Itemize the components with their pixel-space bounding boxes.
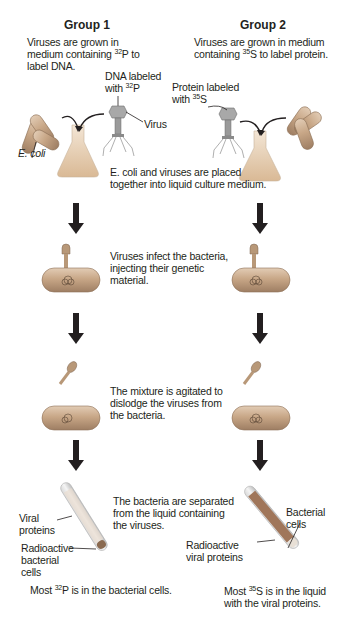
radioactive-bacterial-cells-label: Radioactive bacterial cells: [21, 542, 76, 578]
ecoli-cluster-group2: [285, 104, 324, 151]
detached-virus-group2: [244, 360, 263, 384]
flask-group1: [58, 125, 99, 177]
detached-virus-group1: [60, 360, 79, 384]
radioactive-viral-proteins-label: Radioactive viral proteins: [186, 539, 256, 563]
virus-label: Virus: [144, 118, 167, 130]
bacterium-group1-agitated: [42, 406, 100, 430]
bacteriophage-group1: [103, 96, 143, 156]
leader-radioactive-proteins: [257, 540, 275, 542]
step-1-text: E. coli and viruses are placed together …: [110, 166, 270, 190]
group1-result: Most 32P is in the bacterial cells.: [30, 584, 180, 596]
flow-arrows: [68, 203, 268, 471]
ecoli-label: E. coli: [18, 147, 45, 159]
infected-bacterium-group1: [42, 244, 100, 292]
bacteriophage-group2: [208, 106, 244, 158]
step-3-text: The mixture is agitated to dislodge the …: [110, 385, 225, 421]
arrow-virus-to-flask-2: [240, 121, 260, 132]
step-4-text: The bacteria are separated from the liqu…: [113, 495, 238, 531]
group1-title: Group 1: [64, 18, 110, 32]
bacterium-group2-agitated: [232, 406, 290, 430]
arrow-ecoli-to-flask-2: [262, 118, 286, 132]
step-2-text: Viruses infect the bacteria, injecting t…: [110, 250, 235, 286]
group2-result: Most 35S is in the liquid with the viral…: [224, 585, 339, 609]
group2-intro: Viruses are grown in medium containing 3…: [194, 36, 339, 60]
infected-bacterium-group2: [232, 244, 290, 292]
group2-title: Group 2: [240, 18, 286, 32]
dna-labeled-label: DNA labeled with 32P: [105, 70, 167, 94]
protein-labeled-label: Protein labeled with 35S: [172, 81, 242, 105]
bacterial-cells-label: Bacterial cells: [286, 506, 331, 530]
group1-intro: Viruses are grown in medium containing 3…: [27, 36, 147, 72]
viral-proteins-label: Viral proteins: [19, 512, 64, 536]
